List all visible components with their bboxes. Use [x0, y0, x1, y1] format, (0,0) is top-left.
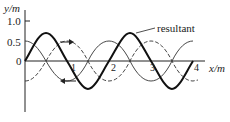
- resultant-label: resultant: [157, 23, 195, 34]
- wave-diagram: [0, 0, 230, 122]
- x-tick-4: 4: [194, 63, 199, 73]
- y-axis-label: y/m: [4, 3, 20, 14]
- x-axis-label: x/m: [209, 63, 225, 74]
- x-tick-2: 2: [111, 63, 116, 73]
- y-tick-1: 1.0: [7, 16, 21, 27]
- arrow-right-icon: [69, 39, 74, 45]
- y-tick-0: 0: [16, 56, 22, 67]
- y-tick-05: 0.5: [7, 37, 21, 48]
- x-tick-3: 3: [150, 63, 155, 73]
- x-tick-1: 1: [71, 63, 76, 73]
